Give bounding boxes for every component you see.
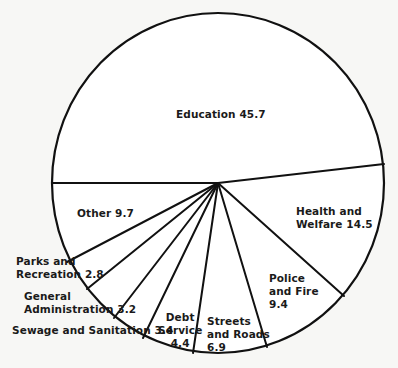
label-text: 9.4: [269, 298, 319, 311]
slice-label-education: Education 45.7: [176, 108, 266, 121]
label-text: Police: [269, 272, 319, 285]
label-text: Debt: [158, 311, 202, 324]
label-text: 6.9: [207, 341, 270, 354]
label-text: Other 9.7: [77, 207, 134, 220]
slice-label-other: Other 9.7: [77, 207, 134, 220]
label-text: Health and: [296, 205, 373, 218]
slice-label-general-administration: General Administration 3.2: [24, 290, 136, 316]
slice-label-parks-recreation: Parks and Recreation 2.8: [16, 255, 104, 281]
label-text: Education 45.7: [176, 108, 266, 121]
label-text: Administration 3.2: [24, 303, 136, 316]
label-text: and Fire: [269, 285, 319, 298]
label-text: Recreation 2.8: [16, 268, 104, 281]
label-text: Welfare 14.5: [296, 218, 373, 231]
slice-label-streets-roads: Streets and Roads 6.9: [207, 315, 270, 354]
label-text: Streets: [207, 315, 270, 328]
pie-chart: Education 45.7 Health and Welfare 14.5 P…: [0, 0, 398, 368]
label-text: 4.4: [158, 337, 202, 350]
label-text: General: [24, 290, 136, 303]
slice-label-health-welfare: Health and Welfare 14.5: [296, 205, 373, 231]
label-text: Sewage and Sanitation 3.4: [12, 324, 173, 337]
label-text: and Roads: [207, 328, 270, 341]
label-text: Parks and: [16, 255, 104, 268]
slice-label-police-fire: Police and Fire 9.4: [269, 272, 319, 311]
slice-label-sewage-sanitation: Sewage and Sanitation 3.4: [12, 324, 173, 337]
